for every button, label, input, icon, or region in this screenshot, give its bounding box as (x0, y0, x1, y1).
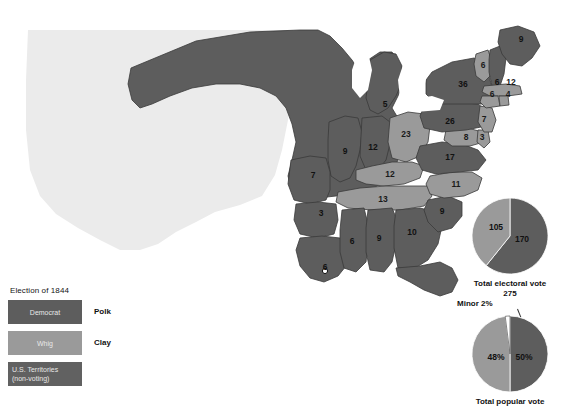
legend-candidate-clay: Clay (94, 331, 111, 355)
state-florida-territory (396, 262, 458, 296)
electoral-pie-svg: 170 105 (470, 196, 550, 276)
state-vote-label-indiana: 12 (368, 142, 378, 152)
state-vote-label-tennessee: 13 (378, 194, 388, 204)
electoral-pie-total: 275 (455, 289, 565, 299)
legend-swatch-territories: U.S. Territories(non-voting) (8, 362, 82, 386)
state-vote-label-kentucky: 12 (385, 169, 395, 179)
popular-minor-annotation: Minor 2% (457, 299, 493, 308)
state-vote-label-north-carolina: 11 (452, 179, 461, 189)
state-massachusetts (482, 84, 522, 96)
state-vote-label-south-carolina: 9 (440, 206, 445, 216)
popular-vote-pie-chart: Minor 2% 50% 48% Total popular vote (455, 300, 565, 406)
state-vote-label-new-hampshire: 6 (495, 77, 500, 87)
legend-candidate-polk: Polk (94, 300, 111, 324)
election-map-page: 966124636267831711910966371312912235 Ele… (0, 0, 568, 406)
state-vote-label-ohio: 23 (401, 129, 411, 139)
state-vote-label-maryland: 8 (464, 132, 469, 142)
lake-michigan (398, 58, 428, 100)
state-vote-label-vermont: 6 (481, 60, 486, 70)
state-vote-label-maine: 9 (519, 34, 524, 44)
legend: Election of 1844 Democrat Polk Whig Clay… (8, 286, 168, 393)
state-vote-label-delaware: 3 (480, 132, 485, 142)
popular-label-whig: 48% (487, 352, 504, 362)
state-vote-label-mississippi: 6 (350, 236, 355, 246)
legend-swatch-whig: Whig (8, 331, 82, 355)
state-vote-label-michigan: 5 (383, 99, 388, 109)
state-vote-label-missouri: 7 (311, 170, 316, 180)
electoral-pie-caption: Total electoral vote (455, 279, 565, 289)
state-vote-label-georgia: 10 (407, 227, 417, 237)
legend-item-territories: U.S. Territories(non-voting) (8, 362, 168, 386)
state-vote-label-alabama: 9 (377, 233, 382, 243)
state-vote-label-louisiana: 6 (323, 262, 328, 272)
legend-item-whig: Whig Clay (8, 331, 168, 355)
state-louisiana (296, 236, 346, 282)
legend-swatch-label-whig: Whig (35, 339, 55, 348)
legend-swatch-label-territories: U.S. Territories(non-voting) (8, 365, 82, 383)
state-vote-label-arkansas: 3 (319, 208, 324, 218)
state-vote-label-pennsylvania: 26 (445, 116, 455, 126)
legend-swatch-label-democrat: Democrat (28, 308, 62, 317)
state-vote-label-new-jersey: 7 (482, 114, 487, 124)
popular-label-democrat: 50% (515, 352, 532, 362)
state-vote-label-connecticut: 6 (490, 89, 495, 99)
state-vote-label-massachusetts: 12 (506, 77, 516, 87)
legend-item-democrat: Democrat Polk (8, 300, 168, 324)
state-vote-label-illinois: 9 (343, 146, 348, 156)
legend-territories-line2: (non-voting) (12, 375, 49, 382)
state-vote-label-new-york: 36 (458, 79, 468, 89)
electoral-label-democrat: 170 (515, 234, 529, 244)
legend-swatch-democrat: Democrat (8, 300, 82, 324)
legend-territories-line1: U.S. Territories (12, 366, 58, 373)
state-vote-label-virginia: 17 (445, 152, 455, 162)
state-alabama (366, 208, 398, 272)
legend-title: Election of 1844 (10, 286, 168, 295)
state-missouri (288, 156, 330, 204)
electoral-vote-pie-chart: 170 105 Total electoral vote 275 (455, 196, 565, 299)
popular-pie-wrap: 50% 48% (470, 314, 550, 394)
electoral-label-whig: 105 (489, 222, 503, 232)
popular-pie-svg: 50% 48% (470, 314, 550, 394)
popular-pie-caption: Total popular vote (455, 397, 565, 406)
electoral-pie-wrap: 170 105 (470, 196, 550, 276)
state-vote-label-rhode-island: 4 (506, 89, 511, 99)
state-arkansas (294, 202, 338, 238)
